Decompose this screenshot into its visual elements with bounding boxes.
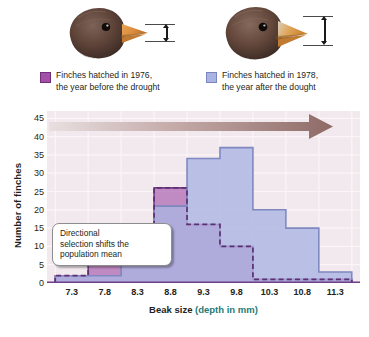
- y-tick-20: 20: [34, 205, 44, 215]
- x-tick-11.3: 11.3: [327, 287, 344, 297]
- y-tick-5: 5: [39, 260, 44, 270]
- x-axis-label-unit: (depth in mm): [195, 304, 258, 315]
- y-tick-40: 40: [34, 132, 44, 142]
- finch-head-1978: [218, 2, 316, 70]
- legend-item-1978: Finches hatched in 1978, the year after …: [206, 70, 318, 93]
- chart-legend: Finches hatched in 1976, the year before…: [0, 70, 369, 104]
- legend-swatch-1978: [206, 72, 217, 83]
- y-tick-15: 15: [34, 223, 44, 233]
- x-axis-label-main: Beak size: [149, 304, 195, 315]
- finch-head-1976: [62, 2, 157, 68]
- x-axis-label: Beak size (depth in mm): [47, 304, 360, 315]
- x-tick-9.3: 9.3: [197, 287, 210, 297]
- callout-annotation: Directional selection shifts the populat…: [52, 223, 172, 266]
- x-axis-ticks: 7.37.88.38.89.39.810.310.811.3: [47, 287, 360, 301]
- y-tick-25: 25: [34, 187, 44, 197]
- x-tick-8.3: 8.3: [131, 287, 144, 297]
- x-tick-7.8: 7.8: [98, 287, 111, 297]
- y-tick-10: 10: [34, 241, 44, 251]
- x-tick-10.3: 10.3: [261, 287, 279, 297]
- histogram-chart: Number of finches 051015202530354045 Dir…: [0, 104, 369, 337]
- x-tick-10.8: 10.8: [294, 287, 312, 297]
- x-tick-7.3: 7.3: [65, 287, 78, 297]
- y-tick-30: 30: [34, 168, 44, 178]
- beak-depth-gauge-1976: [145, 24, 177, 42]
- beak-depth-gauge-1978: [303, 16, 335, 46]
- y-tick-0: 0: [39, 278, 44, 288]
- x-tick-8.8: 8.8: [164, 287, 177, 297]
- y-axis-label: Number of finches: [12, 146, 23, 266]
- legend-swatch-1976: [40, 72, 51, 83]
- y-axis-ticks: 051015202530354045: [22, 104, 44, 284]
- legend-item-1976: Finches hatched in 1976, the year before…: [40, 70, 160, 93]
- legend-label-1978: Finches hatched in 1978, the year after …: [222, 70, 318, 93]
- y-tick-35: 35: [34, 150, 44, 160]
- legend-label-1976: Finches hatched in 1976, the year before…: [56, 70, 160, 93]
- finch-illustration-band: [0, 0, 369, 68]
- x-tick-9.8: 9.8: [230, 287, 243, 297]
- y-tick-45: 45: [34, 113, 44, 123]
